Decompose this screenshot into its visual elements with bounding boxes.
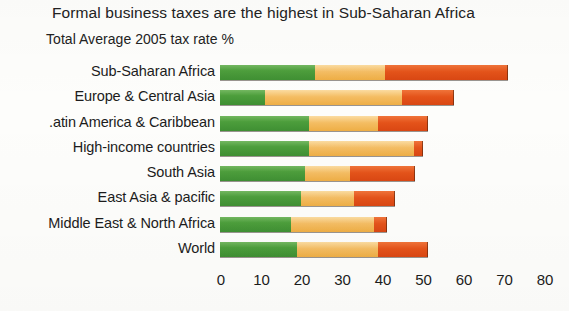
bar-segment-profit-tax (220, 191, 301, 206)
bar-row: South Asia (0, 163, 569, 188)
category-label: High-income countries (73, 139, 215, 155)
bar-row: East Asia & pacific (0, 188, 569, 213)
bar-segment-other-taxes (350, 166, 416, 181)
bar-segment-profit-tax (220, 116, 309, 131)
bar-row: Middle East & North Africa (0, 214, 569, 239)
bar-row: High-income countries (0, 138, 569, 163)
x-axis-tick-label: 0 (217, 271, 225, 288)
bar-row: Sub-Saharan Africa (0, 62, 569, 87)
category-label: World (178, 240, 215, 256)
x-axis-tick-label: 50 (415, 271, 432, 288)
x-axis: 01020304050607080 (0, 271, 569, 301)
bar-row: Europe & Central Asia (0, 87, 569, 112)
chart-figure: Formal business taxes are the highest in… (0, 0, 569, 311)
x-axis-tick-label: 80 (537, 271, 554, 288)
bar-segment-profit-tax (220, 166, 305, 181)
bar-segment-profit-tax (220, 65, 315, 80)
bar-segment-labor-tax (291, 217, 374, 232)
stacked-bar (220, 242, 428, 257)
category-label: Europe & Central Asia (74, 88, 215, 104)
x-axis-tick-label: 70 (496, 271, 513, 288)
category-label: Sub-Saharan Africa (91, 63, 215, 79)
bar-segment-other-taxes (385, 65, 508, 80)
bar-segment-labor-tax (305, 166, 350, 181)
bar-segment-other-taxes (414, 141, 423, 156)
x-axis-tick-label: 10 (253, 271, 270, 288)
category-label: Middle East & North Africa (48, 215, 215, 231)
stacked-bar (220, 116, 428, 131)
bar-row: .atin America & Caribbean (0, 113, 569, 138)
bar-segment-labor-tax (265, 90, 403, 105)
stacked-bar (220, 90, 454, 105)
bar-segment-other-taxes (354, 191, 396, 206)
stacked-bar (220, 141, 423, 156)
bar-segment-labor-tax (309, 141, 414, 156)
bar-segment-other-taxes (374, 217, 387, 232)
x-axis-tick-label: 60 (456, 271, 473, 288)
stacked-bar (220, 191, 395, 206)
bar-segment-labor-tax (301, 191, 354, 206)
category-label: .atin America & Caribbean (49, 114, 215, 130)
bar-rows: Sub-Saharan AfricaEurope & Central Asia.… (0, 62, 569, 264)
x-axis-tick-label: 40 (375, 271, 392, 288)
bar-segment-labor-tax (315, 65, 385, 80)
stacked-bar (220, 65, 508, 80)
bar-segment-profit-tax (220, 90, 265, 105)
bar-segment-other-taxes (378, 242, 428, 257)
bar-segment-other-taxes (378, 116, 428, 131)
bar-segment-profit-tax (220, 141, 309, 156)
bar-segment-profit-tax (220, 217, 291, 232)
category-label: East Asia & pacific (98, 189, 215, 205)
x-axis-tick-label: 30 (334, 271, 351, 288)
x-axis-tick-label: 20 (294, 271, 311, 288)
category-label: South Asia (147, 164, 215, 180)
bar-row: World (0, 239, 569, 264)
plot-area: Sub-Saharan AfricaEurope & Central Asia.… (0, 0, 569, 311)
bar-segment-labor-tax (297, 242, 378, 257)
bar-segment-labor-tax (309, 116, 378, 131)
bar-segment-profit-tax (220, 242, 297, 257)
bar-segment-other-taxes (402, 90, 454, 105)
stacked-bar (220, 217, 387, 232)
stacked-bar (220, 166, 415, 181)
